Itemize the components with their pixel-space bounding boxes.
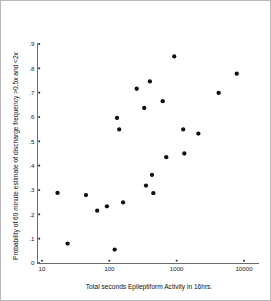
x-tick-label: 100: [104, 265, 115, 272]
data-point: [95, 209, 99, 213]
y-tick-label: .6: [29, 113, 35, 120]
x-tick-label: 1000: [170, 265, 184, 272]
data-point: [181, 127, 185, 131]
data-point: [151, 191, 155, 195]
data-points-layer: [55, 54, 239, 252]
data-point: [84, 193, 88, 197]
data-point: [65, 241, 69, 245]
data-point: [196, 131, 200, 135]
x-tick-label: 10000: [235, 265, 253, 272]
data-point: [144, 183, 148, 187]
data-point: [55, 191, 59, 195]
data-point: [115, 116, 119, 120]
y-tick-label: .7: [29, 89, 35, 96]
data-point: [117, 127, 121, 131]
x-axis-title: Total seconds Epileptiform Activity in 1…: [86, 283, 213, 291]
data-point: [235, 72, 239, 76]
x-axis: 10100100010000: [37, 260, 259, 272]
data-point: [164, 155, 168, 159]
y-tick-label: .8: [29, 65, 35, 72]
data-point: [161, 99, 165, 103]
y-tick-label: .9: [29, 40, 35, 47]
x-tick-label: 10: [39, 265, 46, 272]
y-tick-label: 0: [31, 259, 35, 266]
y-tick-label: .2: [29, 211, 35, 218]
y-tick-label: .1: [29, 235, 35, 242]
data-point: [172, 54, 176, 58]
y-axis-title: Probability of 60 minute estimate of dis…: [12, 51, 20, 260]
y-tick-label: .5: [29, 138, 35, 145]
data-point: [135, 87, 139, 91]
data-point: [150, 173, 154, 177]
y-tick-label: .3: [29, 186, 35, 193]
data-point: [182, 151, 186, 155]
data-point: [121, 200, 125, 204]
data-point: [113, 247, 117, 251]
data-point: [148, 79, 152, 83]
data-point: [216, 91, 220, 95]
y-tick-label: .4: [29, 162, 35, 169]
figure-container: 0.1.2.3.4.5.6.7.8.9 10100100010000 Total…: [0, 0, 271, 301]
data-point: [142, 106, 146, 110]
data-point: [105, 204, 109, 208]
y-axis: 0.1.2.3.4.5.6.7.8.9: [29, 40, 40, 266]
scatter-plot: 0.1.2.3.4.5.6.7.8.9 10100100010000 Total…: [1, 1, 271, 301]
